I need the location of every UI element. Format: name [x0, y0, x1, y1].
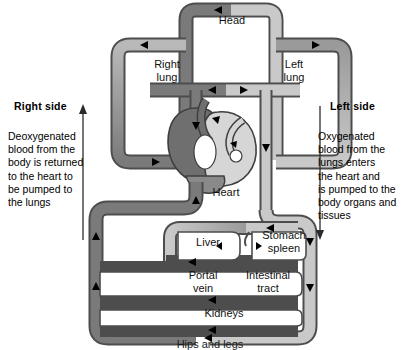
- right-side-annotation-arrowhead: [79, 104, 87, 114]
- organ-label-portal-vein: Portal vein: [181, 269, 225, 294]
- heart-organ: [168, 100, 256, 193]
- right-side-heading: Right side: [14, 100, 67, 112]
- organ-label-right-lung: Right lung: [144, 58, 190, 83]
- right-side-description: Deoxygenated blood from the body is retu…: [8, 130, 112, 209]
- organ-label-heart: Heart: [202, 186, 250, 199]
- organ-label-liver: Liver: [186, 236, 230, 249]
- organ-label-kidneys: Kidneys: [195, 307, 253, 320]
- left-side-heading: Left side: [330, 100, 375, 112]
- organ-label-hips-and-legs: Hips and legs: [165, 338, 255, 350]
- organ-label-intestinal-tract: Intestinal tract: [239, 269, 297, 294]
- organ-label-left-lung: Left lung: [271, 58, 317, 83]
- organ-label-head: Head: [202, 14, 262, 27]
- left-side-description: Oxygenated blood from the lungs enters t…: [318, 130, 403, 222]
- organ-label-stomach-spleen: Stomach spleen: [256, 229, 312, 254]
